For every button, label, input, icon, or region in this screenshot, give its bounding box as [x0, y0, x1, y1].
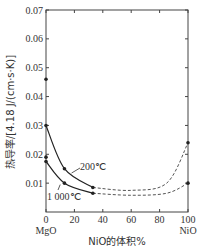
y-tick-label: 0.04: [26, 91, 44, 102]
y-tick-label: 0.01: [26, 178, 44, 189]
x-end-label-right: NiO: [179, 225, 196, 236]
data-point: [63, 167, 67, 171]
series-label-200c: 200℃: [80, 161, 106, 172]
y-axis-title: 热导率/[4.18 J/(cm·s·K)]: [4, 55, 16, 169]
series-line-extrapolated: [93, 143, 188, 191]
thermal-conductivity-chart: 0.010.020.030.040.050.060.07 02040608010…: [0, 0, 198, 252]
data-point: [186, 181, 190, 185]
data-point: [91, 186, 95, 190]
data-point: [44, 124, 48, 128]
x-tick-label: 40: [98, 214, 108, 225]
data-point: [44, 77, 48, 81]
series-label-1000c: 1 000℃: [47, 191, 81, 202]
x-end-label-left: MgO: [35, 225, 56, 236]
series-line-extrapolated: [93, 183, 188, 195]
data-series: [44, 77, 190, 195]
y-tick-label: 0.03: [26, 120, 44, 131]
plot-frame: [46, 10, 188, 212]
y-axis-ticks: 0.010.020.030.040.050.060.07: [26, 5, 189, 189]
y-tick-label: 0.06: [26, 33, 44, 44]
data-point: [44, 155, 48, 159]
y-tick-label: 0.07: [26, 5, 44, 16]
x-tick-label: 20: [69, 214, 79, 225]
x-tick-label: 80: [155, 214, 165, 225]
x-tick-label: 0: [44, 214, 49, 225]
data-point: [91, 191, 95, 195]
series-labels: 200℃1 000℃: [47, 161, 106, 202]
x-tick-label: 60: [126, 214, 136, 225]
x-tick-label: 100: [181, 214, 196, 225]
data-point: [63, 181, 67, 185]
data-point: [44, 160, 48, 164]
y-tick-label: 0.05: [26, 62, 44, 73]
series-line-measured: [46, 125, 93, 187]
data-point: [186, 141, 190, 145]
x-axis-title: NiO的体积%: [88, 235, 146, 247]
y-tick-label: 0.02: [26, 149, 44, 160]
